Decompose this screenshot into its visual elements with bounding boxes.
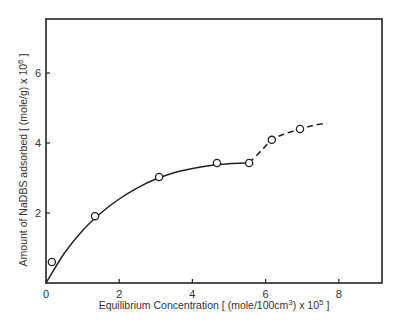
data-point-marker bbox=[48, 258, 55, 265]
chart: 02468246 Equilibrium Concentration [ (mo… bbox=[0, 0, 399, 331]
axis-ticks: 02468246 bbox=[35, 67, 342, 300]
plot-border bbox=[46, 19, 382, 283]
x-tick-label: 0 bbox=[43, 288, 49, 300]
x-tick-label: 8 bbox=[336, 288, 342, 300]
data-point-marker bbox=[91, 213, 98, 220]
data-point-marker bbox=[268, 136, 275, 143]
data-point-marker bbox=[296, 125, 303, 132]
data-point-marker bbox=[246, 159, 253, 166]
y-tick-label: 4 bbox=[35, 137, 41, 149]
plot-frame bbox=[46, 19, 382, 283]
fit-curve bbox=[46, 163, 249, 283]
y-tick-label: 6 bbox=[35, 67, 41, 79]
y-tick-label: 2 bbox=[35, 207, 41, 219]
y-axis-label: Amount of NaDBS adsorbed [ (mole/g) x 10… bbox=[16, 54, 29, 267]
data-point-marker bbox=[213, 159, 220, 166]
data-point-marker bbox=[155, 173, 162, 180]
x-axis-label: Equilibrium Concentration [ (mole/100cm3… bbox=[99, 298, 330, 311]
curves bbox=[46, 123, 327, 283]
dashed-extension bbox=[249, 123, 327, 163]
